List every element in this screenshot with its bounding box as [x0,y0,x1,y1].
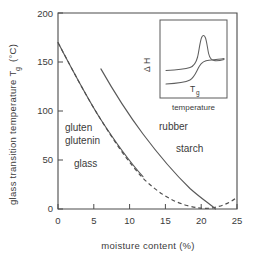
x-tick-label: 10 [124,215,135,226]
y-tick-label: 150 [37,56,53,67]
inset-tg-label: T [190,84,195,94]
x-tick-label: 25 [232,215,243,226]
region-label-starch: starch [176,143,203,154]
y-tick-label: 100 [37,105,53,116]
region-label-glass: glass [74,158,97,169]
y-tick-label: 200 [37,8,53,19]
region-labels: gluten glutenin glass rubber starch [65,121,203,169]
x-axis-title: moisture content (%) [101,240,195,251]
inset-tg-subscript: g [196,89,200,97]
inset-y-label-h: H [142,58,152,64]
inset-dsc-thermogram: T g Δ H temperature [142,20,227,112]
y-tick-label: 0 [48,203,53,214]
inset-y-axis-label: Δ H [142,58,152,72]
x-axis-tick-labels: 0 5 10 15 20 25 [55,215,242,226]
y-axis-title-text: glass transition temperature T [7,71,18,206]
x-axis-title-text: moisture content (%) [101,240,195,251]
region-label-gluten: gluten [65,122,92,133]
y-axis-tick-labels: 0 50 100 150 200 [37,8,53,214]
curve-gluten-solid [58,43,143,177]
x-tick-label: 15 [160,215,171,226]
region-label-rubber: rubber [159,121,189,132]
y-axis-title-subscript: g [14,67,22,71]
y-axis-title: glass transition temperature T g (°C) [7,44,22,205]
inset-y-label-delta: Δ [142,66,152,72]
region-label-glutenin: glutenin [65,135,100,146]
glass-transition-chart: 0 50 100 150 200 0 5 10 15 20 25 moistur… [0,0,258,266]
y-axis-title-units: (°C) [7,44,18,62]
x-tick-label: 20 [196,215,207,226]
x-tick-label: 0 [55,215,60,226]
y-tick-label: 50 [42,154,53,165]
x-tick-label: 5 [91,215,96,226]
figure-container: 0 50 100 150 200 0 5 10 15 20 25 moistur… [0,0,258,266]
y-axis-ticks [58,13,63,209]
inset-x-label: temperature [172,103,216,112]
